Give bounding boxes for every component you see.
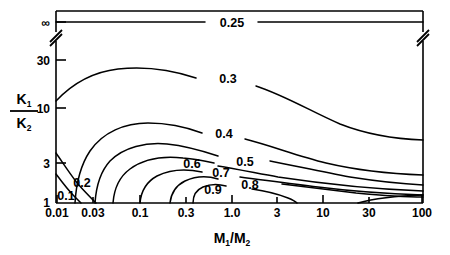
contour-label-0.7: 0.7 [212, 166, 229, 180]
x-axis-tick-labels: 0.01 0.03 0.1 0.3 1.0 3 10 30 100 [45, 206, 432, 220]
x-tick-label-0.03: 0.03 [81, 206, 105, 220]
contour-label-0.9: 0.9 [204, 183, 221, 197]
x-tick-label-30: 30 [362, 206, 376, 220]
x-tick-label-100: 100 [412, 206, 432, 220]
contour-label-0.6: 0.6 [183, 157, 200, 171]
contour-label-0.2: 0.2 [73, 176, 90, 190]
contour-label-0.5: 0.5 [236, 155, 253, 169]
x-tick-label-3: 3 [274, 206, 281, 220]
x-tick-label-0.01: 0.01 [45, 206, 69, 220]
y-tick-label-infinity: ∞ [41, 16, 50, 30]
contour-label-0.4: 0.4 [215, 127, 232, 141]
x-tick-label-1.0: 1.0 [224, 206, 241, 220]
x-tick-label-0.3: 0.3 [178, 206, 195, 220]
x-tick-label-10: 10 [316, 206, 330, 220]
contour-label-0.3: 0.3 [219, 72, 236, 86]
y-tick-label-30: 30 [37, 54, 51, 68]
x-tick-label-0.1: 0.1 [132, 206, 149, 220]
contour-plot-canvas: 0.25 0.3 0.4 0.5 0.6 0.7 0.8 0.9 0.2 0.1… [0, 0, 450, 255]
contour-label-0.1: 0.1 [57, 189, 74, 203]
y-tick-label-3: 3 [43, 157, 50, 171]
contour-label-0.8: 0.8 [241, 178, 258, 192]
contour-figure: 0.25 0.3 0.4 0.5 0.6 0.7 0.8 0.9 0.2 0.1… [0, 0, 450, 255]
x-axis-title: M1/M2 [214, 230, 251, 248]
contour-label-0.25: 0.25 [220, 16, 244, 30]
y-tick-label-10: 10 [37, 102, 51, 116]
